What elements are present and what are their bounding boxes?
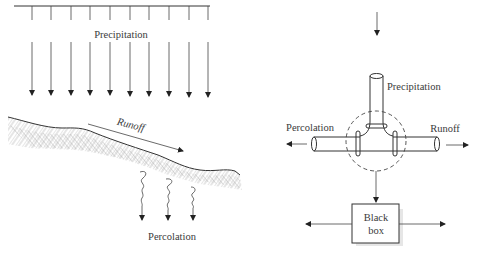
runoff-label-left: Runoff xyxy=(115,116,148,134)
percolation-arrow-icon xyxy=(191,187,195,220)
rain-stubs xyxy=(32,6,208,20)
rain-arrows xyxy=(32,42,208,97)
precipitation-label-left: Precipitation xyxy=(94,29,148,40)
hydrologic-diagram: Precipitation Runoff P xyxy=(0,0,480,256)
precipitation-label-right: Precipitation xyxy=(387,81,441,92)
black-box-label-line2: box xyxy=(368,225,385,236)
percolation-label-left: Percolation xyxy=(148,231,197,242)
horizontal-pipe xyxy=(312,131,440,156)
black-box-label-line1: Black xyxy=(364,212,389,223)
left-panel: Precipitation Runoff P xyxy=(8,6,242,242)
percolation-arrow-icon xyxy=(166,179,172,220)
percolation-arrow-icon xyxy=(140,171,146,220)
percolation-label-right: Percolation xyxy=(286,122,335,133)
black-box: Black box xyxy=(352,204,403,246)
right-panel: Precipitation Percolation Runoff Black b… xyxy=(286,12,468,246)
runoff-label-right: Runoff xyxy=(430,123,460,134)
